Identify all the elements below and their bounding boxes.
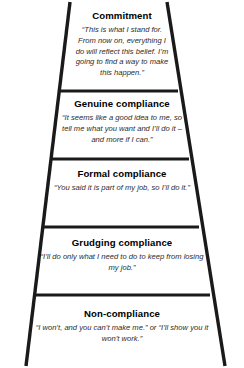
ladder-level-quote: “This is what I stand for. From now on, … (74, 25, 170, 79)
ladder-level-quote: “I won’t, and you can’t make me.” or “I’… (29, 323, 215, 345)
ladder-level-non-compliance: Non-compliance “I won’t, and you can’t m… (0, 308, 244, 345)
ladder-diagram: Commitment “This is what I stand for. Fr… (0, 0, 244, 368)
ladder-level-title: Commitment (4, 10, 240, 21)
ladder-level-title: Genuine compliance (4, 98, 240, 109)
ladder-level-commitment: Commitment “This is what I stand for. Fr… (0, 10, 244, 79)
ladder-level-quote: “You said it is part of my job, so I’ll … (50, 183, 194, 194)
ladder-level-title: Grudging compliance (4, 237, 240, 248)
ladder-level-quote: “I’ll do only what I need to do to keep … (38, 252, 206, 274)
ladder-level-formal-compliance: Formal compliance “You said it is part o… (0, 168, 244, 194)
ladder-level-grudging-compliance: Grudging compliance “I’ll do only what I… (0, 237, 244, 274)
ladder-level-title: Non-compliance (4, 308, 240, 319)
ladder-level-quote: “It seems like a good idea to me, so tel… (60, 113, 184, 145)
ladder-level-genuine-compliance: Genuine compliance “It seems like a good… (0, 98, 244, 145)
ladder-level-title: Formal compliance (4, 168, 240, 179)
